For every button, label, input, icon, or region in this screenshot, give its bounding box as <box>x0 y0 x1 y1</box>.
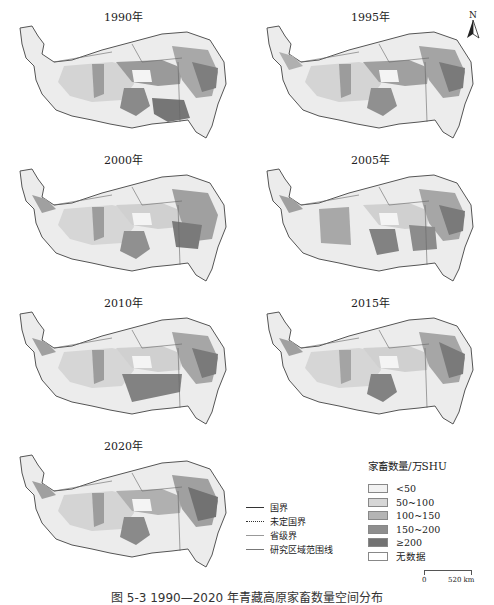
plateau-map <box>12 308 232 428</box>
map-panel-2005: 2005年 <box>247 143 494 286</box>
map-panel-1995: 1995年 <box>247 0 494 143</box>
legend-study-area-boundary: 研究区域范围线 <box>246 542 333 556</box>
color-swatch <box>368 552 388 561</box>
legend-label: 100~150 <box>396 510 440 521</box>
legend-class: 50~100 <box>368 496 447 510</box>
solid-line-icon <box>246 507 264 508</box>
north-label: N <box>466 10 480 20</box>
legend-label: 省级界 <box>270 529 297 542</box>
legend-class: 无数据 <box>368 550 447 564</box>
map-panel-1990: 1990年 <box>0 0 247 143</box>
study-line-icon <box>246 549 264 550</box>
legend-class: <50 <box>368 482 447 496</box>
color-swatch <box>368 498 388 507</box>
legend-class: ≥200 <box>368 536 447 550</box>
map-panel-2020: 2020年 <box>0 429 247 572</box>
scale-end: 520 km <box>448 576 474 584</box>
scale-bar: 0 520 km <box>422 570 488 588</box>
legend-provincial-boundary: 省级界 <box>246 528 333 542</box>
map-panel-2000: 2000年 <box>0 143 247 286</box>
plateau-map <box>12 165 232 285</box>
scale-start: 0 <box>422 576 426 584</box>
legend-label: ≥200 <box>396 537 422 548</box>
map-panel-2015: 2015年 <box>247 286 494 429</box>
legend-label: 50~100 <box>396 497 434 508</box>
plateau-map <box>259 165 479 285</box>
legend-label: 无数据 <box>396 549 426 563</box>
legend-label: <50 <box>396 483 416 494</box>
scale-bar-line <box>424 570 472 575</box>
color-swatch <box>368 538 388 547</box>
color-swatch <box>368 484 388 493</box>
boundary-legend: 国界 未定国界 省级界 研究区域范围线 <box>246 500 333 556</box>
legend-title: 家畜数量/万SHU <box>368 458 447 473</box>
legend-label: 国界 <box>270 501 288 514</box>
figure-caption: 图 5-3 1990—2020 年青藏高原家畜数量空间分布 <box>0 588 494 605</box>
legend-undetermined-boundary: 未定国界 <box>246 514 333 528</box>
legend-national-boundary: 国界 <box>246 500 333 514</box>
plateau-map <box>259 308 479 428</box>
dotted-line-icon <box>246 521 264 522</box>
north-arrow-icon <box>466 20 480 40</box>
plateau-map <box>259 22 479 142</box>
legend-label: 150~200 <box>396 524 440 535</box>
color-swatch <box>368 525 388 534</box>
legend-label: 未定国界 <box>270 515 306 528</box>
color-swatch <box>368 511 388 520</box>
north-arrow: N <box>466 10 480 44</box>
plateau-map <box>12 22 232 142</box>
map-panel-2010: 2010年 <box>0 286 247 429</box>
livestock-legend: 家畜数量/万SHU <50 50~100 100~150 150~200 ≥20… <box>368 458 447 563</box>
legend-label: 研究区域范围线 <box>270 543 333 556</box>
plateau-map <box>12 451 232 571</box>
legend-class: 100~150 <box>368 509 447 523</box>
legend-class: 150~200 <box>368 523 447 537</box>
thin-line-icon <box>246 535 264 536</box>
